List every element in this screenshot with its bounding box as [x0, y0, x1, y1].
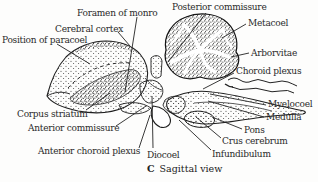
label-arborvitae: Arborvitae: [251, 48, 297, 58]
pons-shape: [185, 111, 215, 127]
caption-index: C: [147, 163, 155, 174]
label-choroid-plexus: Choroid plexus: [236, 66, 301, 76]
label-medulla: Medulla: [266, 112, 301, 122]
label-foramen-of-monro: Foramen of monro: [77, 8, 157, 18]
sagittal-view-diagram: Posterior commissure Foramen of monro Me…: [0, 0, 318, 182]
label-diocoel: Diocoel: [147, 150, 179, 160]
label-metacoel: Metacoel: [248, 18, 288, 28]
label-crus-cerebrum: Crus cerebrum: [222, 136, 288, 146]
label-anterior-choroid-plexus: Anterior choroid plexus: [38, 146, 140, 156]
label-myelocoel: Myelocoel: [268, 99, 312, 109]
choroid-plexus-shape: [225, 78, 297, 93]
label-anterior-commissure: Anterior commissure: [28, 123, 119, 133]
label-position-of-paracoel: Position of paracoel: [2, 35, 87, 45]
crus-cerebrum-shape: [163, 96, 185, 113]
label-pons: Pons: [244, 125, 265, 135]
caption-title: Sagittal view: [160, 163, 223, 174]
label-posterior-commissure: Posterior commissure: [172, 2, 267, 12]
label-cerebral-cortex: Cerebral cortex: [55, 24, 123, 34]
label-infundibulum: Infundibulum: [212, 149, 271, 159]
leader-anterior-choroid-plexus: [139, 115, 150, 148]
cerebellum-shape: [165, 14, 239, 79]
leader-diocoel: [152, 96, 153, 148]
label-corpus-striatum: Corpus striatum: [17, 109, 88, 119]
figure-caption: CSagittal view: [147, 163, 222, 174]
